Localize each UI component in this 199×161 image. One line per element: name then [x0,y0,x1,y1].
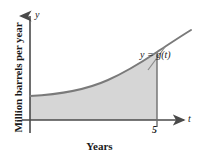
figure-container: Million barrels per year Years y t 5 y =… [0,0,199,161]
plot-area [0,0,199,161]
x-axis-variable-label: t [188,114,191,124]
curve-equation-label: y = g(t) [140,50,171,60]
x-axis-title: Years [0,141,199,152]
y-axis-variable-label: y [35,10,39,20]
y-axis-title: Million barrels per year [13,23,24,133]
x-axis-tick-label-5: 5 [152,125,157,135]
